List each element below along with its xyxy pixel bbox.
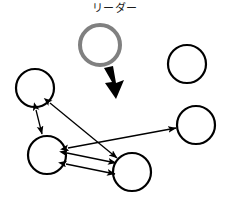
diagram-svg	[0, 0, 229, 200]
node-bottom-center	[113, 153, 151, 191]
link-upperleft-lowerleft	[36, 110, 42, 134]
diagram-canvas: リーダー	[0, 0, 229, 200]
leader-circle	[80, 25, 120, 65]
link-lowerleft-bottomcenter-upper	[67, 153, 116, 163]
link-lowerleft-bottomcenter-lower	[66, 164, 115, 174]
node-lower-left	[28, 136, 66, 174]
node-middle-right	[177, 106, 215, 144]
node-upper-left	[16, 69, 54, 107]
leader-direction-arrow	[104, 66, 124, 99]
node-top-right	[168, 45, 206, 83]
node-circles	[16, 45, 215, 191]
